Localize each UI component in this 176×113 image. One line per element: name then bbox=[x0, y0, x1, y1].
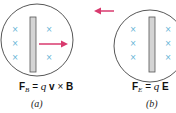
caption-b: (b) bbox=[146, 98, 158, 109]
cross-icon: × bbox=[46, 25, 53, 34]
force-subscript: B bbox=[25, 86, 29, 94]
force-subscript: E bbox=[138, 86, 142, 94]
charge-symbol: q bbox=[154, 80, 160, 92]
cross-icon: × bbox=[12, 39, 19, 48]
cross-icon: × bbox=[12, 25, 19, 34]
field-symbol: E bbox=[162, 81, 169, 92]
conducting-strip-a bbox=[30, 17, 36, 72]
equation-b: FE = q E bbox=[132, 80, 169, 94]
force-arrow-right-icon bbox=[39, 41, 68, 48]
cross-icon: × bbox=[130, 25, 137, 34]
cross-icon: × bbox=[165, 39, 172, 48]
field-symbol: B bbox=[66, 81, 73, 92]
cross-icon: × bbox=[46, 53, 53, 62]
diagram-canvas: × × × × × × × × × × × bbox=[0, 0, 176, 113]
cross-icon: × bbox=[130, 39, 137, 48]
velocity-symbol: v bbox=[49, 81, 55, 92]
charge-symbol: q bbox=[41, 80, 47, 92]
cross-product-operator: × bbox=[57, 81, 63, 92]
conducting-strip-b bbox=[149, 17, 155, 72]
equals-sign: = bbox=[32, 81, 38, 92]
cross-icon: × bbox=[12, 53, 19, 62]
panel-a: × × × × × bbox=[1, 4, 73, 76]
equation-a: FB = q v × B bbox=[19, 80, 73, 94]
force-arrow-left-icon bbox=[94, 8, 114, 15]
panel-b: × × × × × × bbox=[94, 8, 176, 83]
cross-icon: × bbox=[165, 25, 172, 34]
cross-icon: × bbox=[165, 53, 172, 62]
caption-a: (a) bbox=[31, 98, 43, 109]
cross-icon: × bbox=[130, 53, 137, 62]
equals-sign: = bbox=[145, 81, 151, 92]
